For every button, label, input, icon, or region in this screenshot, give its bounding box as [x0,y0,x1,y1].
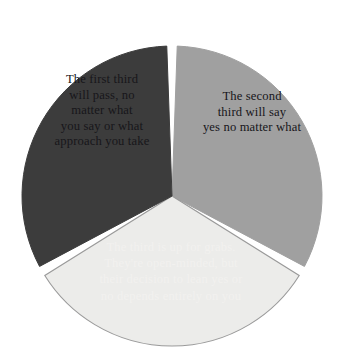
pie-diagram: The first third will pass, no matter wha… [0,0,341,351]
pie-chart-svg [0,0,341,351]
